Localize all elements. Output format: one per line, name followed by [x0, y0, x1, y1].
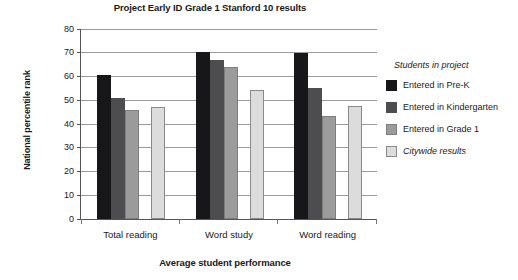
- legend-entries: Entered in Pre-KEntered in KindergartenE…: [386, 79, 518, 158]
- legend-item-entered-in-grade-1[interactable]: Entered in Grade 1: [386, 123, 518, 136]
- x-tick-mark-origin: [81, 219, 82, 224]
- plot-area: 01020304050607080 Total readingWord stud…: [80, 29, 376, 219]
- legend-label: Entered in Grade 1: [403, 124, 479, 135]
- y-tick-label-30: 30: [42, 143, 74, 152]
- bar-total-reading-series-2: [125, 110, 139, 219]
- bar-total-reading-series-3: [151, 107, 165, 219]
- x-tick-mark-2: [376, 219, 377, 224]
- y-tick-label-40: 40: [42, 120, 74, 129]
- bar-total-reading-series-1: [111, 98, 125, 219]
- y-tick-label-70: 70: [42, 48, 74, 57]
- series-0-swatch: [386, 80, 397, 91]
- bar-total-reading-series-0: [97, 75, 111, 219]
- y-tick-label-0: 0: [42, 215, 74, 224]
- legend-item-entered-in-kindergarten[interactable]: Entered in Kindergarten: [386, 101, 518, 114]
- x-tick-mark-0: [179, 219, 180, 224]
- legend: Students in project Entered in Pre-KEnte…: [386, 60, 518, 167]
- x-axis-label-word-reading: Word reading: [278, 229, 377, 240]
- x-axis-label-total-reading: Total reading: [81, 229, 180, 240]
- y-tick-label-10: 10: [42, 191, 74, 200]
- y-tick-label-20: 20: [42, 167, 74, 176]
- bar-word-study-series-1: [210, 60, 224, 219]
- legend-label: Citywide results: [403, 146, 466, 157]
- series-2-swatch: [386, 124, 397, 135]
- bar-word-reading-series-2: [322, 116, 336, 219]
- series-1-swatch: [386, 102, 397, 113]
- chart-container: Project Early ID Grade 1 Stanford 10 res…: [0, 0, 518, 280]
- bar-word-study-series-0: [196, 52, 210, 219]
- series-3-swatch: [386, 146, 397, 157]
- chart-title: Project Early ID Grade 1 Stanford 10 res…: [60, 2, 360, 13]
- legend-item-citywide-results[interactable]: Citywide results: [386, 145, 518, 158]
- x-tick-mark-1: [277, 219, 278, 224]
- y-axis-title: National percentile rank: [22, 35, 32, 205]
- y-tick-label-80: 80: [42, 25, 74, 34]
- legend-item-entered-in-pre-k[interactable]: Entered in Pre-K: [386, 79, 518, 92]
- y-tick-label-60: 60: [42, 72, 74, 81]
- bar-word-reading-series-1: [308, 88, 322, 219]
- x-axis-title: Average student performance: [60, 257, 390, 268]
- bar-word-reading-series-3: [348, 106, 362, 219]
- bar-series-group: [81, 29, 377, 219]
- bar-word-study-series-2: [224, 67, 238, 219]
- y-tick-label-50: 50: [42, 96, 74, 105]
- legend-label: Entered in Pre-K: [403, 80, 470, 91]
- legend-title: Students in project: [394, 60, 518, 70]
- x-axis-label-word-study: Word study: [180, 229, 279, 240]
- legend-label: Entered in Kindergarten: [403, 102, 498, 113]
- bar-word-study-series-3: [250, 90, 264, 219]
- bar-word-reading-series-0: [294, 53, 308, 219]
